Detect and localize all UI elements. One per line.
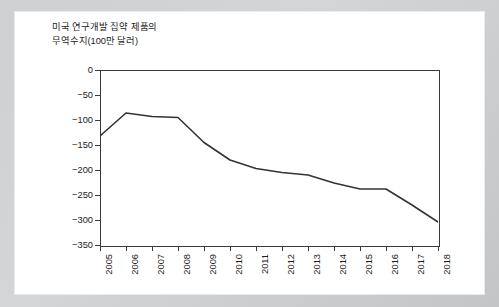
x-axis-tick-mark: [412, 246, 413, 251]
x-axis-tick-mark: [308, 246, 309, 251]
x-axis-tick-mark: [334, 246, 335, 251]
y-axis-tick-mark: [95, 145, 100, 146]
y-axis-tick-mark: [95, 220, 100, 221]
x-axis-tick-mark: [204, 246, 205, 251]
x-axis-tick-label: 2008: [182, 254, 192, 275]
x-axis-tick-mark: [152, 246, 153, 251]
x-axis-tick-mark: [438, 246, 439, 251]
y-axis-tick-mark: [95, 170, 100, 171]
x-axis-tick-label: 2007: [156, 254, 166, 275]
chart-title: 미국 연구개발 집약 제품의 무역수지(100만 달러): [52, 20, 332, 48]
x-axis-tick-mark: [178, 246, 179, 251]
x-axis-tick-mark: [100, 246, 101, 251]
chart-plot-region: 0−50−100−150−200−250−300−350 20052006200…: [100, 70, 438, 245]
x-axis-tick-label: 2013: [312, 254, 322, 275]
x-axis-tick-label: 2016: [390, 254, 400, 275]
x-axis-tick-label: 2012: [286, 254, 296, 275]
x-axis-tick-label: 2006: [130, 254, 140, 275]
x-axis-tick-label: 2009: [208, 254, 218, 275]
chart-card: 미국 연구개발 집약 제품의 무역수지(100만 달러) 0−50−100−15…: [14, 11, 485, 295]
y-axis-tick-mark: [95, 120, 100, 121]
x-axis-tick-label: 2017: [416, 254, 426, 275]
x-axis-tick-mark: [282, 246, 283, 251]
x-axis-tick-mark: [230, 246, 231, 251]
series-polyline: [100, 113, 438, 222]
x-axis-tick-label: 2010: [234, 254, 244, 275]
x-axis-tick-mark: [256, 246, 257, 251]
x-axis-tick-label: 2015: [364, 254, 374, 275]
y-axis-tick-mark: [95, 70, 100, 71]
x-axis-tick-label: 2011: [260, 254, 270, 274]
y-axis-tick-mark: [95, 95, 100, 96]
data-line-series: [100, 70, 438, 245]
x-axis-tick-label: 2014: [338, 254, 348, 275]
x-axis-tick-label: 2018: [442, 254, 452, 275]
x-axis-tick-mark: [126, 246, 127, 251]
x-axis-tick-mark: [360, 246, 361, 251]
figure-outer-frame: 미국 연구개발 집약 제품의 무역수지(100만 달러) 0−50−100−15…: [0, 0, 499, 307]
x-axis-tick-label: 2005: [104, 254, 114, 275]
x-axis-tick-mark: [386, 246, 387, 251]
y-axis-tick-mark: [95, 195, 100, 196]
